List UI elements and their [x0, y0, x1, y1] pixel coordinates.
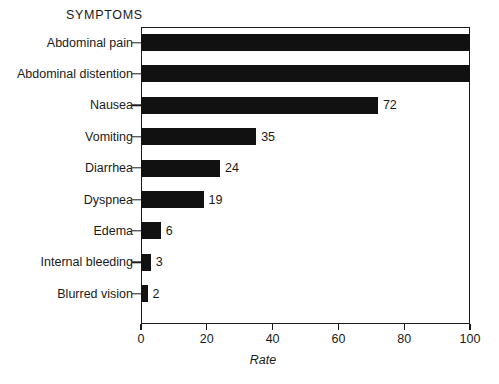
x-axis-tick-mark [404, 324, 405, 330]
bar-row: 35 [141, 128, 470, 145]
bar-value-label: 72 [378, 98, 397, 112]
bar-value-label: 3 [151, 255, 163, 269]
bar [141, 97, 378, 114]
bar-row: 2 [141, 285, 470, 302]
bar [141, 191, 204, 208]
category-tick-mark [132, 73, 141, 74]
category-label: Edema [93, 224, 133, 238]
bar [141, 254, 151, 271]
bar-value-label: 6 [161, 224, 173, 238]
x-axis-tick-label: 0 [138, 332, 145, 346]
x-axis-tick-label: 20 [200, 332, 214, 346]
bar [141, 222, 161, 239]
x-axis-tick-mark [272, 324, 273, 330]
bar [141, 285, 148, 302]
category-tick-mark [132, 167, 141, 168]
bar-row: 19 [141, 191, 470, 208]
x-axis-tick-mark [206, 324, 207, 330]
x-axis-tick-mark [338, 324, 339, 330]
bar-value-label: 35 [256, 129, 275, 143]
bar-row: 3 [141, 254, 470, 271]
category-label: Abdominal distention [17, 67, 133, 81]
bar-row [141, 34, 470, 51]
category-label: Dyspnea [84, 193, 133, 207]
category-tick-mark [132, 293, 141, 294]
category-label: Abdominal pain [47, 36, 133, 50]
x-axis-tick-mark [140, 324, 141, 330]
x-axis-title-text: Rate [250, 353, 276, 367]
category-label: Internal bleeding [41, 255, 133, 269]
category-label: Vomiting [85, 130, 133, 144]
category-tick-mark [132, 199, 141, 200]
category-tick-mark [132, 136, 141, 137]
x-axis-tick-label: 80 [397, 332, 411, 346]
bar-value-label: 19 [204, 192, 223, 206]
bar-row: 72 [141, 97, 470, 114]
bar-row [141, 65, 470, 82]
category-label: Nausea [90, 98, 133, 112]
bar-value-label: 2 [148, 286, 160, 300]
bar [141, 128, 256, 145]
bar-value-label: 24 [220, 161, 239, 175]
bar-row: 6 [141, 222, 470, 239]
category-label: Diarrhea [85, 161, 133, 175]
x-axis-tick-label: 100 [460, 332, 481, 346]
bar [141, 34, 470, 51]
bar-chart: SYMPTOMS 72352419632 Abdominal painAbdom… [0, 0, 499, 384]
category-tick-mark [132, 262, 141, 263]
category-tick-mark [132, 42, 141, 43]
bar [141, 160, 220, 177]
category-tick-mark [132, 230, 141, 231]
bar [141, 65, 470, 82]
x-axis-title: Rate [0, 353, 499, 367]
category-label: Blurred vision [57, 287, 133, 301]
category-axis-title: SYMPTOMS [66, 8, 143, 22]
bar-row: 24 [141, 160, 470, 177]
x-axis-tick-label: 40 [266, 332, 280, 346]
x-axis-tick-label: 60 [331, 332, 345, 346]
category-tick-mark [132, 105, 141, 106]
x-axis-tick-mark [469, 324, 470, 330]
